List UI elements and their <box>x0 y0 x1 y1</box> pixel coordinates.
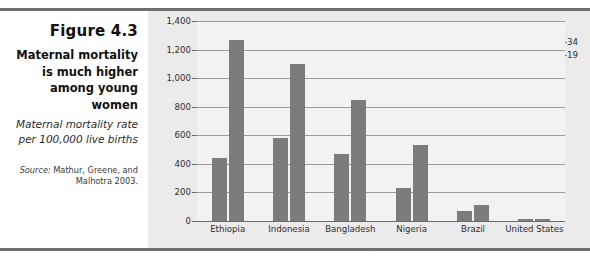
bar-group <box>197 21 258 221</box>
source-text: Mathur, Greene, and Malhotra 2003. <box>51 165 138 187</box>
y-axis-tick-label: 0 <box>186 216 191 226</box>
bar <box>535 219 550 221</box>
bar <box>518 219 533 221</box>
bar-group <box>258 21 319 221</box>
bar-group <box>320 21 381 221</box>
x-axis-tick-label: Brazil <box>442 224 503 234</box>
bar <box>290 64 305 221</box>
bar <box>413 145 428 221</box>
x-axis-tick-label: Ethiopia <box>197 224 258 234</box>
gridline <box>197 221 565 222</box>
bar <box>334 154 349 221</box>
y-axis-tick-label: 800 <box>175 102 191 112</box>
bar <box>396 188 411 221</box>
y-tick-mark <box>192 221 197 222</box>
source-label: Source: <box>20 165 51 175</box>
y-axis-tick-label: 400 <box>175 159 191 169</box>
x-axis-labels: EthiopiaIndonesiaBangladeshNigeriaBrazil… <box>197 224 565 234</box>
x-axis-tick-label: Bangladesh <box>320 224 381 234</box>
figure-container: Figure 4.3 Maternal mortality is much hi… <box>0 0 590 261</box>
plot-area: 1,4001,2001,0008006004002000 <box>197 21 565 221</box>
x-axis-tick-label: United States <box>504 224 565 234</box>
y-axis-tick-label: 1,400 <box>166 16 191 26</box>
bar-group <box>504 21 565 221</box>
figure-subtitle: Maternal mortality rate per 100,000 live… <box>6 117 138 147</box>
y-axis-tick-label: 1,000 <box>166 73 191 83</box>
bar <box>212 158 227 221</box>
bar <box>273 138 288 221</box>
bar <box>457 211 472 221</box>
y-axis-tick-label: 1,200 <box>166 45 191 55</box>
bar-group <box>442 21 503 221</box>
bottom-rule <box>0 248 590 251</box>
figure-number: Figure 4.3 <box>6 22 138 40</box>
bar-group <box>381 21 442 221</box>
x-axis-tick-label: Nigeria <box>381 224 442 234</box>
y-axis-tick-label: 200 <box>175 187 191 197</box>
bar <box>229 40 244 221</box>
bar <box>474 205 489 221</box>
caption-column: Figure 4.3 Maternal mortality is much hi… <box>0 11 148 248</box>
chart-panel: Ages 20–34Ages 15–19 1,4001,2001,0008006… <box>148 11 590 248</box>
bar <box>351 100 366 221</box>
y-axis-tick-label: 600 <box>175 130 191 140</box>
bars-layer <box>197 21 565 221</box>
x-axis-tick-label: Indonesia <box>258 224 319 234</box>
figure-source: Source: Mathur, Greene, and Malhotra 200… <box>6 165 138 188</box>
figure-title: Maternal mortality is much higher among … <box>6 47 138 114</box>
